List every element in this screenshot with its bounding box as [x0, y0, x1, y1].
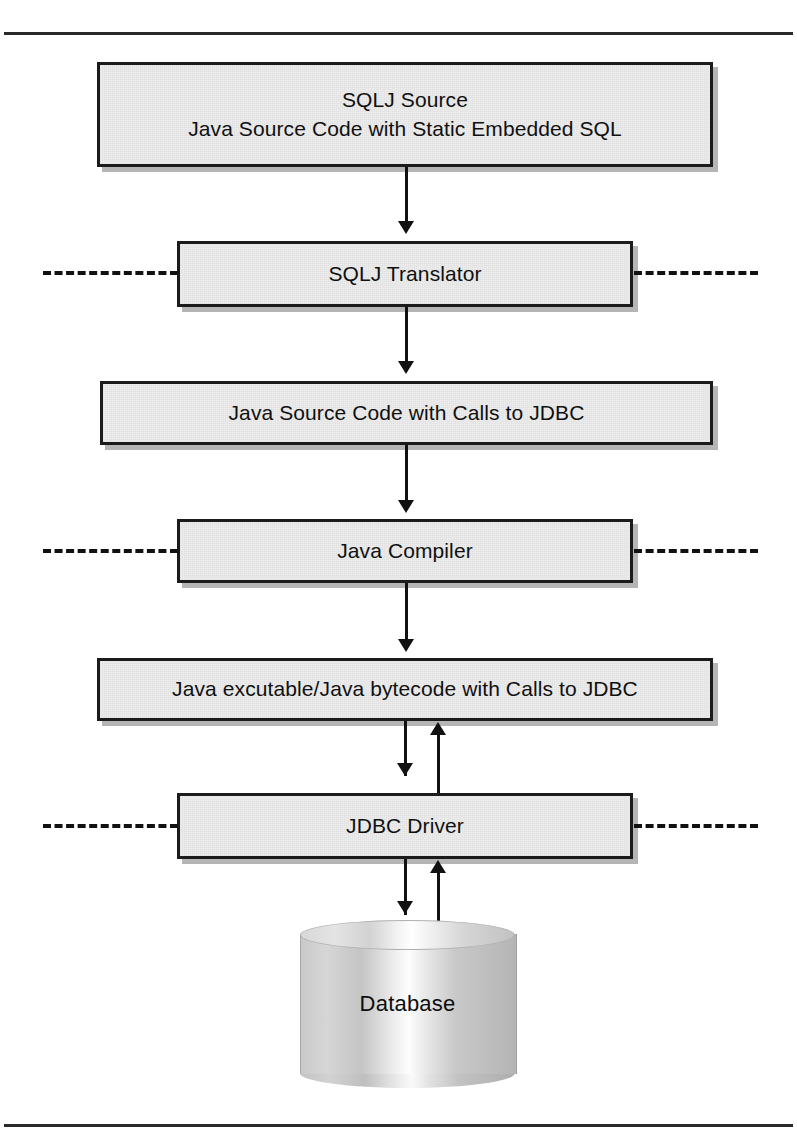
node-sqlj-translator-label: SQLJ Translator [328, 260, 481, 289]
node-jdbc-driver-label: JDBC Driver [346, 812, 464, 841]
connector-source-to-translator [405, 167, 408, 223]
node-java-bytecode-label: Java excutable/Java bytecode with Calls … [172, 675, 638, 704]
node-sqlj-source-line-2: Java Source Code with Static Embedded SQ… [188, 115, 622, 144]
arrowhead-javasource-to-compiler [398, 500, 414, 513]
arrowhead-database-to-driver [430, 860, 446, 873]
boundary-line-driver-left [43, 824, 178, 828]
node-sqlj-source-line-1: SQLJ Source [342, 86, 468, 115]
node-sqlj-source[interactable]: SQLJ Source Java Source Code with Static… [97, 62, 713, 167]
connector-driver-to-bytecode [437, 731, 440, 796]
node-database-label: Database [300, 920, 515, 1088]
node-java-compiler[interactable]: Java Compiler [177, 519, 633, 583]
arrowhead-bytecode-to-driver [397, 763, 413, 776]
connector-compiler-to-bytecode [405, 583, 408, 641]
boundary-line-driver-right [634, 824, 758, 828]
arrowhead-source-to-translator [398, 221, 414, 234]
arrowhead-driver-to-bytecode [430, 722, 446, 735]
node-java-source-jdbc-label: Java Source Code with Calls to JDBC [229, 399, 585, 428]
connector-javasource-to-compiler [405, 445, 408, 502]
arrowhead-compiler-to-bytecode [398, 639, 414, 652]
boundary-line-translator-left [43, 271, 178, 275]
diagram-canvas: SQLJ Source Java Source Code with Static… [0, 0, 797, 1139]
boundary-line-compiler-right [634, 549, 758, 553]
page-rule-top [4, 32, 793, 35]
node-database[interactable]: Database [300, 920, 515, 1088]
node-java-bytecode[interactable]: Java excutable/Java bytecode with Calls … [97, 658, 713, 721]
boundary-line-compiler-left [43, 549, 178, 553]
node-java-compiler-label: Java Compiler [337, 537, 473, 566]
node-jdbc-driver[interactable]: JDBC Driver [177, 793, 633, 859]
page-rule-bottom [4, 1124, 793, 1127]
boundary-line-translator-right [634, 271, 758, 275]
connector-translator-to-javasource [405, 307, 408, 363]
node-sqlj-translator[interactable]: SQLJ Translator [177, 241, 633, 307]
node-java-source-jdbc[interactable]: Java Source Code with Calls to JDBC [100, 381, 713, 445]
arrowhead-translator-to-javasource [398, 361, 414, 374]
arrowhead-driver-to-database [397, 901, 413, 914]
